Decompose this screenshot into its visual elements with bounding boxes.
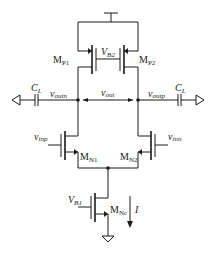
supply-symbol	[78, 13, 138, 51]
transistor-mn2	[138, 100, 168, 168]
label-cl-left: CL	[31, 82, 42, 95]
transistor-mp2	[120, 45, 138, 100]
ground-left-icon	[12, 95, 20, 105]
current-arrow	[127, 196, 133, 228]
label-vout: vout	[101, 87, 115, 99]
transistor-mp1	[78, 45, 96, 100]
label-voutp: voutp	[148, 88, 165, 100]
label-current: I	[134, 204, 139, 215]
label-mp1: MP1	[53, 54, 70, 67]
label-mn1: MN1	[80, 151, 98, 164]
ground-right-icon	[196, 95, 204, 105]
label-voutn: voutn	[50, 88, 67, 100]
transistor-mn1	[48, 100, 78, 168]
label-mnc: MNc	[110, 204, 127, 217]
capacitor-cl-left	[20, 94, 78, 106]
circuit-diagram: MP1 MP2 MN1 MN2 MNc VB2 VB1 CL CL voutn …	[0, 0, 213, 254]
label-vb1: VB1	[68, 194, 82, 207]
label-vinn: vinn	[168, 131, 182, 143]
label-vb2: VB2	[101, 46, 115, 59]
capacitor-cl-right	[138, 94, 196, 106]
transistor-mnc	[78, 193, 108, 236]
label-vinp: vinp	[34, 131, 48, 143]
label-mn2: MN2	[120, 151, 138, 164]
ground-bottom-icon	[102, 236, 114, 242]
label-mp2: MP2	[139, 54, 156, 67]
label-cl-right: CL	[175, 82, 186, 95]
